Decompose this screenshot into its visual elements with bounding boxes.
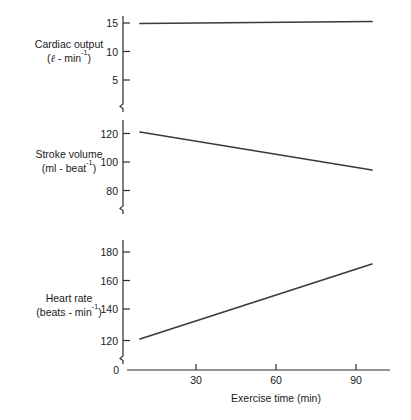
y-tick-label-hr-180: 180 — [100, 246, 118, 258]
y-tick-label-stroke-80: 80 — [106, 185, 118, 197]
y-tick-label-stroke-100: 100 — [100, 156, 118, 168]
y-tick-label-cardiac-5: 5 — [112, 74, 118, 86]
panel-label-cardiac-output-line1: Cardiac output — [35, 38, 103, 50]
y-tick-label-hr-160: 160 — [100, 275, 118, 287]
y-tick-label-cardiac-15: 15 — [106, 17, 118, 29]
y-axis-cardiac-output — [120, 16, 123, 112]
data-line-heart-rate — [140, 264, 372, 339]
panel-stroke-volume: 120 100 80 Stroke volume (ml - beat-1) — [35, 120, 372, 214]
data-line-stroke-volume — [140, 132, 372, 170]
x-axis-title: Exercise time (min) — [231, 392, 321, 404]
panel-heart-rate: 180 160 140 120 Heart rate (beats - min-… — [36, 240, 372, 364]
unit-text-cardiac: - min — [55, 52, 81, 64]
x-tick-label-90: 90 — [350, 374, 362, 386]
paren-close-2: ) — [93, 162, 97, 174]
paren-close: ) — [88, 52, 92, 64]
y-axis-stroke-volume — [120, 120, 123, 214]
three-panel-exercise-chart: 15 10 5 Cardiac output (ℓ - min-1) 120 1… — [0, 0, 411, 420]
paren-close-3: ) — [98, 306, 102, 318]
x-origin-label-zero: 0 — [113, 364, 119, 376]
data-line-cardiac-output — [140, 22, 372, 24]
y-tick-label-stroke-120: 120 — [100, 128, 118, 140]
y-tick-label-hr-140: 140 — [100, 303, 118, 315]
y-tick-label-cardiac-10: 10 — [106, 46, 118, 58]
unit-text-stroke: ml - beat — [45, 162, 86, 174]
panel-label-heart-rate-line1: Heart rate — [46, 292, 93, 304]
figure-container: 15 10 5 Cardiac output (ℓ - min-1) 120 1… — [0, 0, 411, 420]
y-axis-heart-rate — [120, 240, 123, 364]
x-tick-label-30: 30 — [190, 374, 202, 386]
x-axis-group: 30 60 90 0 Exercise time (min) — [113, 364, 390, 404]
panel-cardiac-output: 15 10 5 Cardiac output (ℓ - min-1) — [35, 16, 372, 112]
unit-text-hr: beats - min — [40, 306, 92, 318]
y-tick-label-hr-120: 120 — [100, 335, 118, 347]
x-tick-label-60: 60 — [270, 374, 282, 386]
